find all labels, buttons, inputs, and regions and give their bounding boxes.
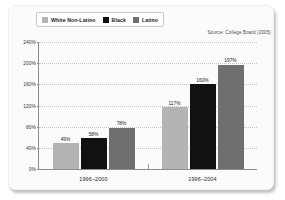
bar[interactable] bbox=[162, 107, 188, 169]
bar-group: 49%58%78%1996–2000 bbox=[39, 42, 148, 169]
legend-label-white-non-latino: White Non-Latino bbox=[51, 17, 96, 23]
bar[interactable] bbox=[218, 65, 244, 169]
bar[interactable] bbox=[53, 143, 79, 169]
legend-swatch-white-non-latino bbox=[42, 17, 48, 23]
bar-column[interactable]: 160% bbox=[190, 42, 216, 169]
x-axis-group-separator bbox=[148, 164, 149, 169]
bar-value-label: 117% bbox=[162, 101, 188, 106]
bar-column[interactable]: 49% bbox=[53, 42, 79, 169]
bar-value-label: 58% bbox=[81, 132, 107, 137]
bar[interactable] bbox=[81, 138, 107, 169]
y-axis-tick-label: 160% bbox=[23, 81, 36, 87]
legend-label-black: Black bbox=[112, 17, 126, 23]
bar[interactable] bbox=[109, 128, 135, 169]
bar-value-label: 160% bbox=[190, 78, 216, 83]
legend-swatch-latino bbox=[133, 17, 139, 23]
legend-item-latino: Latino bbox=[133, 17, 158, 23]
y-axis-tick-label: 240% bbox=[23, 39, 36, 45]
bar-value-label: 78% bbox=[109, 121, 135, 126]
y-axis-tick-label: 80% bbox=[26, 124, 36, 130]
chart-legend: White Non-Latino Black Latino bbox=[36, 12, 164, 27]
bar-column[interactable]: 197% bbox=[218, 42, 244, 169]
bar-value-label: 49% bbox=[53, 137, 79, 142]
bar-column[interactable]: 78% bbox=[109, 42, 135, 169]
x-axis-category-label: 1996–2004 bbox=[148, 176, 257, 182]
legend-item-black: Black bbox=[103, 17, 126, 23]
source-note: Source: College Board (2005) bbox=[207, 30, 271, 35]
bar-group-bars: 117%160%197% bbox=[148, 42, 257, 169]
legend-item-white-non-latino: White Non-Latino bbox=[42, 17, 96, 23]
bar-group: 117%160%197%1996–2004 bbox=[148, 42, 257, 169]
y-axis-tick-label: 200% bbox=[23, 60, 36, 66]
bar-value-label: 197% bbox=[218, 58, 244, 63]
bar-column[interactable]: 58% bbox=[81, 42, 107, 169]
bar-column[interactable]: 117% bbox=[162, 42, 188, 169]
legend-swatch-black bbox=[103, 17, 109, 23]
y-axis-tick-label: 0% bbox=[29, 166, 36, 172]
bar-group-bars: 49%58%78% bbox=[39, 42, 148, 169]
x-axis-category-label: 1996–2000 bbox=[39, 176, 148, 182]
plot-area: 0%40%80%120%160%200%240%49%58%78%1996–20… bbox=[38, 42, 257, 170]
y-axis-tick-label: 120% bbox=[23, 103, 36, 109]
chart-figure: White Non-Latino Black Latino Source: Co… bbox=[0, 0, 285, 200]
bar[interactable] bbox=[190, 84, 216, 169]
legend-label-latino: Latino bbox=[142, 17, 158, 23]
y-axis-tick-mark bbox=[37, 169, 39, 170]
y-axis-tick-label: 40% bbox=[26, 145, 36, 151]
